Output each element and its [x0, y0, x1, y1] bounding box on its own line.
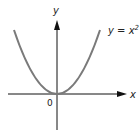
origin-label: 0 [47, 98, 53, 108]
curve-label-text: y = x [107, 25, 135, 36]
y-axis-arrow-icon [54, 20, 60, 30]
curve-label: y = x2 [107, 24, 140, 36]
x-axis-label: x [129, 89, 136, 100]
x-axis-arrow-icon [117, 91, 127, 97]
y-axis-label: y [52, 5, 60, 16]
parabola-chart: y x 0 y = x2 [0, 0, 140, 138]
curve-label-exponent: 2 [135, 24, 140, 32]
